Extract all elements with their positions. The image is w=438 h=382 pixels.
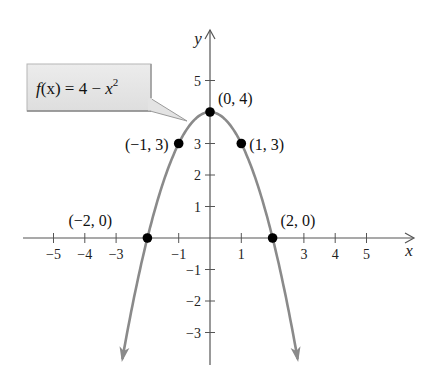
x-tick-label: 5	[363, 247, 370, 262]
y-tick-label: 3	[194, 137, 201, 152]
y-tick-label: −1	[186, 263, 201, 278]
data-point	[143, 233, 153, 243]
x-axis-label: x	[404, 241, 413, 260]
y-tick-label: 2	[194, 168, 201, 183]
point-label: (−2, 0)	[68, 212, 112, 230]
y-tick-label: −3	[186, 326, 201, 341]
point-label: (−1, 3)	[125, 136, 169, 154]
x-tick-label: −3	[109, 247, 124, 262]
data-point	[268, 233, 278, 243]
x-tick-label: −1	[171, 247, 186, 262]
data-point	[174, 139, 184, 149]
x-tick-label: 3	[300, 247, 307, 262]
function-callout: f(x) = 4 − x2	[27, 64, 187, 121]
y-tick-label: 1	[194, 200, 201, 215]
x-tick-label: 1	[238, 247, 245, 262]
x-tick-label: 4	[332, 247, 339, 262]
labeled-points: (−2, 0)(−1, 3)(0, 4)(1, 3)(2, 0)	[68, 90, 315, 243]
function-label: f(x) = 4 − x2	[36, 76, 118, 98]
y-tick-label: 5	[194, 74, 201, 89]
point-label: (2, 0)	[281, 212, 316, 230]
callout-pointer	[150, 98, 187, 121]
data-point	[205, 107, 215, 117]
x-tick-label: −5	[46, 247, 61, 262]
y-axis-label: y	[192, 29, 202, 48]
point-label: (1, 3)	[249, 136, 284, 154]
x-tick-label: −4	[77, 247, 92, 262]
data-point	[237, 139, 247, 149]
point-label: (0, 4)	[218, 90, 253, 108]
parabola-chart: −5−4−3−113455321−1−2−3xy (−2, 0)(−1, 3)(…	[0, 0, 438, 382]
y-tick-label: −2	[186, 294, 201, 309]
